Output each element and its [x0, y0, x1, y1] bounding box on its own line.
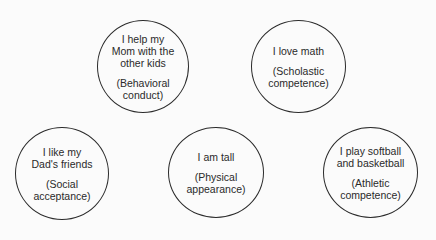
node-statement: I help my Mom with the other kids [112, 33, 174, 69]
node-scholastic-competence: I love math (Scholastic competence) [251, 20, 346, 113]
node-physical-appearance: I am tall (Physical appearance) [168, 127, 264, 218]
node-domain: (Scholastic competence) [268, 65, 329, 89]
node-social-acceptance: I like my Dad's friends (Social acceptan… [15, 127, 109, 220]
node-domain: (Social acceptance) [33, 178, 90, 202]
node-statement: I love math [273, 45, 324, 57]
node-statement: I play softball and basketball [337, 145, 405, 169]
node-athletic-competence: I play softball and basketball (Athletic… [323, 127, 418, 218]
node-domain: (Physical appearance) [187, 171, 246, 195]
node-domain: (Athletic competence) [340, 177, 401, 201]
node-domain: (Behavioral conduct) [116, 77, 169, 101]
node-statement: I am tall [198, 151, 235, 163]
node-behavioral-conduct: I help my Mom with the other kids (Behav… [97, 20, 189, 113]
node-statement: I like my Dad's friends [32, 146, 93, 170]
